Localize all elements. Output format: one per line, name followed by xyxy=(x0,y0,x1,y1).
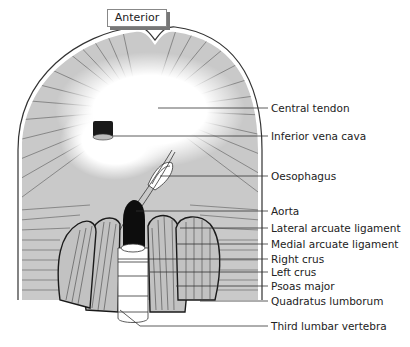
label-right-crus: Right crus xyxy=(271,253,324,265)
diaphragm-diagram: Anterior Central tendon Inferior vena ca… xyxy=(0,0,410,347)
label-aorta: Aorta xyxy=(271,205,299,217)
label-left-crus: Left crus xyxy=(271,266,316,278)
label-oesophagus: Oesophagus xyxy=(271,170,336,182)
third-lumbar-vertebra-shape xyxy=(118,244,148,323)
label-medial-arcuate-ligament: Medial arcuate ligament xyxy=(271,238,398,250)
label-psoas-major: Psoas major xyxy=(271,280,335,292)
psoas-right xyxy=(176,217,220,300)
inferior-vena-cava-shape xyxy=(93,121,113,140)
label-central-tendon: Central tendon xyxy=(271,102,350,114)
label-inferior-vena-cava: Inferior vena cava xyxy=(271,130,366,142)
anterior-orientation-label: Anterior xyxy=(107,9,167,27)
aorta-shape xyxy=(123,200,145,250)
label-third-lumbar-vertebra: Third lumbar vertebra xyxy=(271,320,387,332)
label-lateral-arcuate-ligament: Lateral arcuate ligament xyxy=(271,222,401,234)
label-quadratus-lumborum: Quadratus lumborum xyxy=(271,295,383,307)
